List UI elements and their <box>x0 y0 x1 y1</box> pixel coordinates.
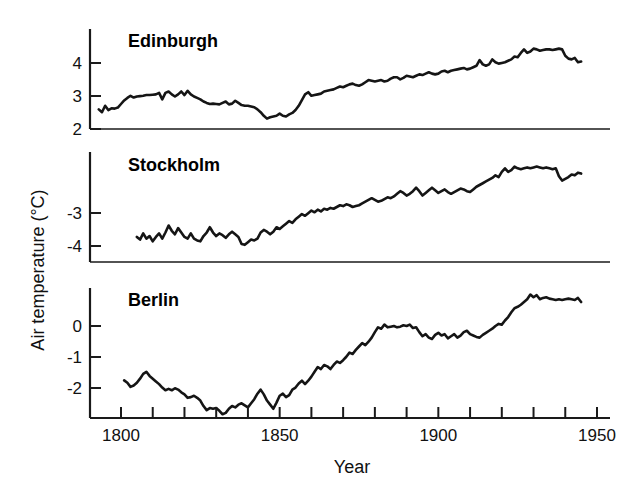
chart-svg: Air temperature (°C) Edinburgh 4 3 2 Sto… <box>0 0 644 488</box>
figure-chart-air-temperature: Air temperature (°C) Edinburgh 4 3 2 Sto… <box>0 0 644 488</box>
xtick-label: 1850 <box>261 426 299 445</box>
ytick-label: 0 <box>73 317 82 336</box>
panel-stockholm-yticklabels: -3 -4 <box>67 204 82 256</box>
xtick-label: 1900 <box>419 426 457 445</box>
ytick-label: -1 <box>67 348 82 367</box>
ytick-label: -2 <box>67 379 82 398</box>
x-axis-title: Year <box>334 457 370 477</box>
ytick-label: 4 <box>73 54 82 73</box>
ytick-label: 3 <box>73 87 82 106</box>
panel-title-stockholm: Stockholm <box>128 155 220 175</box>
panel-title-berlin: Berlin <box>128 290 179 310</box>
panel-edinburgh: Edinburgh 4 3 2 <box>73 29 610 139</box>
ytick-label: 2 <box>73 120 82 139</box>
ytick-label: -4 <box>67 237 82 256</box>
xtick-label: 1800 <box>102 426 140 445</box>
series-line-edinburgh <box>99 49 581 119</box>
series-line-berlin <box>124 295 581 415</box>
x-axis-ticks <box>121 407 597 418</box>
y-axis-title: Air temperature (°C) <box>28 189 48 350</box>
panel-berlin: Berlin 0 -1 -2 <box>67 288 610 418</box>
panel-edinburgh-yticklabels: 4 3 2 <box>73 54 82 139</box>
x-axis-tick-labels: 1800185019001950 <box>102 426 616 445</box>
panel-berlin-yticklabels: 0 -1 -2 <box>67 317 82 398</box>
panel-title-edinburgh: Edinburgh <box>128 31 218 51</box>
ytick-label: -3 <box>67 204 82 223</box>
xtick-label: 1950 <box>578 426 616 445</box>
panel-stockholm: Stockholm -3 -4 <box>67 152 610 262</box>
series-line-stockholm <box>137 167 581 245</box>
